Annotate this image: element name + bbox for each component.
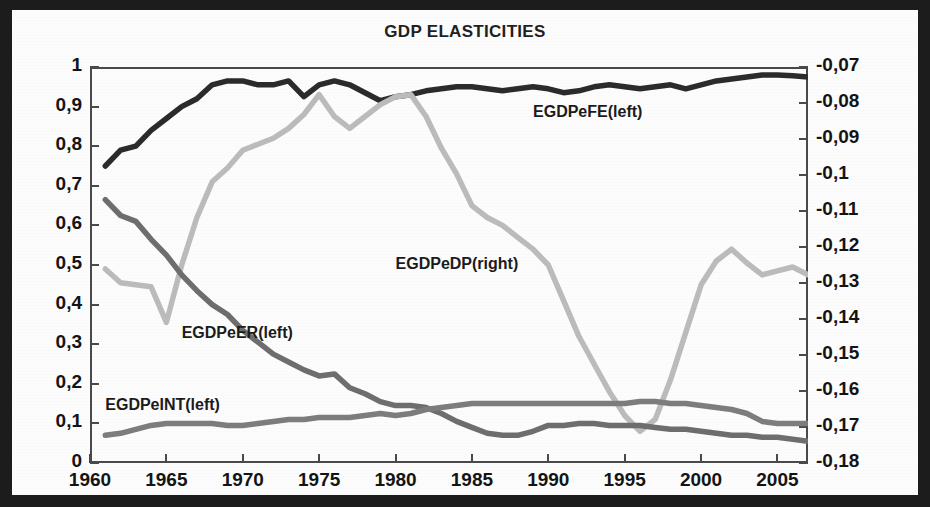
series-label: EGDPeER(left) [182,324,293,342]
series-label: EGDPeDP(right) [396,255,519,273]
right-axis-tick-label: -0,18 [816,450,906,472]
right-axis-tick-label: -0,12 [816,234,906,256]
x-axis-tick-label: 2005 [737,469,817,491]
right-axis-tick-label: -0,14 [816,306,906,328]
x-axis-tick-label: 1980 [356,469,436,491]
left-axis-tick-label: 0,4 [16,292,82,314]
right-axis-tick-label: -0,16 [816,378,906,400]
x-axis-tick-label: 1960 [50,469,130,491]
right-axis-tick-label: -0,09 [816,126,906,148]
x-axis-tick-label: 1985 [432,469,512,491]
series-label: EGDPeINT(left) [105,396,220,414]
series-label: EGDPeFE(left) [533,103,642,121]
x-axis-tick-label: 2000 [661,469,741,491]
right-axis-tick-label: -0,13 [816,270,906,292]
left-axis-tick-label: 0,8 [16,133,82,155]
right-axis-tick-label: -0,11 [816,198,906,220]
left-axis-tick-label: 1 [16,54,82,76]
plot-area: 00,10,20,30,40,50,60,70,80,91 -0,18-0,17… [90,67,808,463]
chart-paper: GDP ELASTICITIES 00,10,20,30,40,50,60,70… [12,10,918,495]
x-axis-tick-label: 1970 [203,469,283,491]
right-axis-tick-label: -0,17 [816,414,906,436]
left-axis-tick-label: 0,2 [16,371,82,393]
right-axis-tick-label: -0,07 [816,54,906,76]
left-axis-tick-label: 0,9 [16,94,82,116]
left-axis-tick-label: 0,3 [16,331,82,353]
chart-title: GDP ELASTICITIES [12,22,918,42]
left-axis-tick-label: 0,7 [16,173,82,195]
right-axis-tick-label: -0,1 [816,162,906,184]
right-axis-tick-label: -0,15 [816,342,906,364]
right-axis-tick-label: -0,08 [816,90,906,112]
x-axis-tick-label: 1975 [279,469,359,491]
series-line [105,75,808,166]
chart-frame: GDP ELASTICITIES 00,10,20,30,40,50,60,70… [0,0,930,507]
left-axis-tick-label: 0,6 [16,212,82,234]
x-axis-tick-label: 1965 [126,469,206,491]
x-axis-tick-label: 1995 [585,469,665,491]
left-axis-tick-label: 0,5 [16,252,82,274]
left-axis-tick-label: 0,1 [16,410,82,432]
x-axis-tick-label: 1990 [508,469,588,491]
